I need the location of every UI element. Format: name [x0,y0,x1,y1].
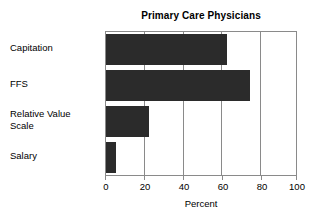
bar-ffs [106,70,250,101]
tick-mark-60 [222,176,223,180]
bar-capitation [106,34,227,65]
chart-title: Primary Care Physicians [105,10,297,22]
gridline-80 [260,32,261,175]
tick-label-0: 0 [86,181,126,192]
bar-salary [106,142,116,173]
tick-label-60: 60 [203,181,243,192]
tick-mark-80 [261,176,262,180]
tick-mark-20 [144,176,145,180]
tick-mark-40 [183,176,184,180]
plot-area [105,31,297,176]
category-label-capitation: Capitation [10,42,102,54]
category-label-rvs-line1: Relative Value [10,108,71,119]
x-axis-title: Percent [105,198,297,209]
tick-label-100: 100 [277,181,317,192]
tick-label-80: 80 [242,181,282,192]
tick-mark-0 [105,176,106,180]
tick-label-20: 20 [125,181,165,192]
category-label-ffs: FFS [10,78,102,90]
category-label-ffs-text: FFS [10,78,28,89]
bar-relative-value-scale [106,106,149,137]
tick-label-40: 40 [164,181,204,192]
bar-chart: Primary Care Physicians Capitation FFS R… [0,0,321,224]
category-label-salary: Salary [10,150,102,162]
category-label-rvs-line2: Scale [10,120,34,131]
category-label-salary-text: Salary [10,150,37,161]
category-label-capitation-text: Capitation [10,42,53,53]
tick-mark-100 [296,176,297,180]
category-label-relative-value-scale: Relative Value Scale [10,108,102,131]
